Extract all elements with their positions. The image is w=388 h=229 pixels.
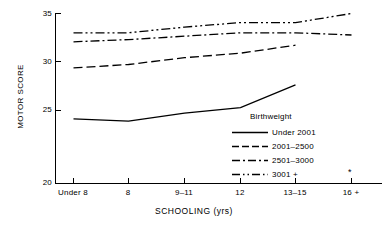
series-line-3001-plus <box>74 14 352 33</box>
legend-label-2001-2500: 2001–2500 <box>272 142 314 151</box>
legend-label-2501-3000: 2501–3000 <box>272 156 314 165</box>
legend-label-under-2001: Under 2001 <box>272 128 316 137</box>
plot-area <box>0 0 388 229</box>
legend-swatch-under-2001 <box>232 126 268 138</box>
motor-score-schooling-chart: MOTOR SCORE SCHOOLING (yrs) 35 30 25 20 … <box>0 0 388 229</box>
legend-title: Birthweight <box>250 112 292 121</box>
legend-label-3001-plus: 3001 + <box>272 170 298 179</box>
legend-swatch-2001-2500 <box>232 140 268 152</box>
series-line-2501-3000 <box>74 33 352 42</box>
legend-swatch-2501-3000 <box>232 154 268 166</box>
legend-swatch-3001-plus <box>232 168 268 180</box>
series-line-2001-2500 <box>74 45 296 68</box>
